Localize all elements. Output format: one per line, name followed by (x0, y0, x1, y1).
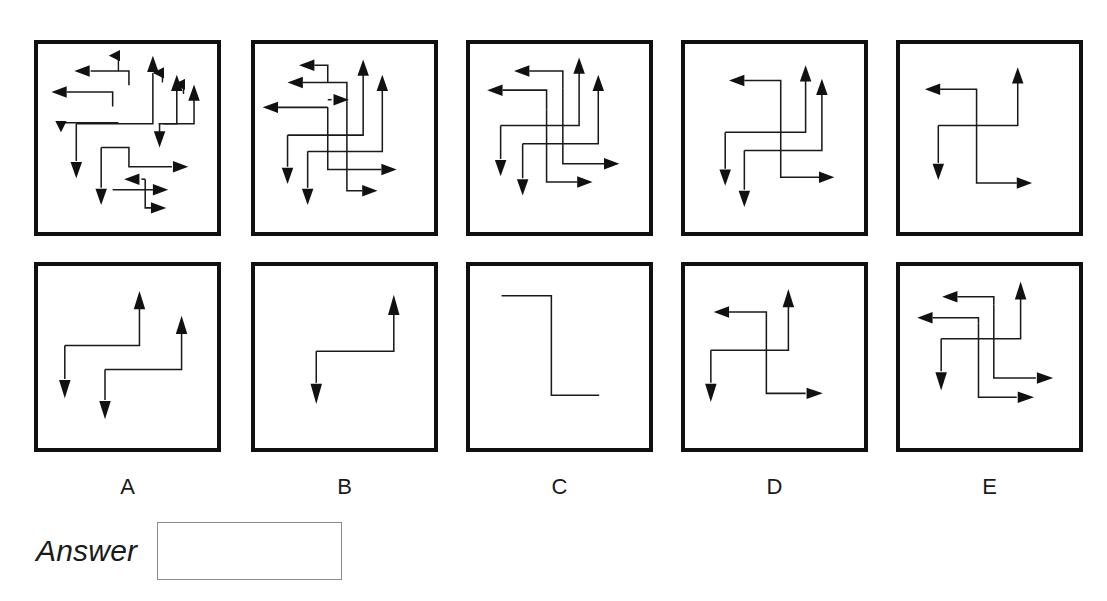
arrow-paths (487, 58, 619, 196)
option-label-b: B (251, 474, 438, 500)
arrow-diagram-bottom-b (255, 266, 434, 448)
option-label-e: E (896, 474, 1083, 500)
arrow-diagram-bottom-e (900, 266, 1079, 448)
arrow-diagram-top-c (470, 44, 649, 232)
figure-panel-top-c[interactable] (466, 40, 653, 236)
arrow-diagram-top-d (685, 44, 864, 232)
arrow-diagram-top-b (255, 44, 434, 232)
arrow-paths (311, 295, 400, 404)
arrow-diagram-bottom-c (470, 266, 649, 448)
arrow-paths (59, 291, 187, 419)
arrow-paths (719, 65, 834, 207)
figure-panel-top-e[interactable] (896, 40, 1083, 236)
plain-zigzag-line (502, 296, 600, 396)
arrow-paths (917, 281, 1053, 403)
option-label-d: D (681, 474, 868, 500)
answer-label: Answer (36, 534, 137, 568)
arrow-paths (925, 67, 1032, 189)
arrow-diagram-bottom-a (38, 266, 217, 448)
arrow-paths (263, 60, 397, 205)
answer-input[interactable] (157, 522, 342, 580)
figure-panel-top-b[interactable] (251, 40, 438, 236)
answer-row: Answer (36, 522, 342, 580)
arrow-diagram-top-a (38, 44, 217, 232)
arrow-paths (51, 56, 199, 214)
figure-panel-bottom-a[interactable] (34, 262, 221, 452)
figure-panel-bottom-e[interactable] (896, 262, 1083, 452)
figure-panel-top-a[interactable] (34, 40, 221, 236)
figure-panel-bottom-c[interactable] (466, 262, 653, 452)
figure-panel-top-d[interactable] (681, 40, 868, 236)
worksheet-page: A B C D E Answer (0, 0, 1107, 601)
figure-panel-bottom-d[interactable] (681, 262, 868, 452)
arrow-paths (705, 289, 823, 402)
option-label-a: A (34, 474, 221, 500)
arrow-diagram-bottom-d (685, 266, 864, 448)
figure-panel-bottom-b[interactable] (251, 262, 438, 452)
arrow-diagram-top-e (900, 44, 1079, 232)
option-label-c: C (466, 474, 653, 500)
cut-off-header-text (0, 0, 1107, 10)
arrow-group (61, 56, 184, 123)
